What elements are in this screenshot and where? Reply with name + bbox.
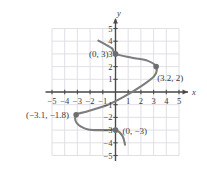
y-tick-label: 5 [108, 24, 112, 33]
y-tick-label: −5 [103, 151, 112, 160]
y-tick-label: 2 [108, 62, 112, 71]
x-tick-label: 5 [177, 97, 181, 106]
y-tick-label: −4 [103, 139, 112, 148]
point-label-p-0-n3: (0, −3) [123, 127, 148, 136]
point-label-p-32-2: (3.2, 2) [157, 73, 183, 82]
x-tick-label: 4 [164, 97, 168, 106]
point-label-p-n31-n18: (−3.1, −1.8) [26, 110, 69, 119]
x-tick-label: 1 [126, 97, 130, 106]
data-point-marker [73, 112, 79, 118]
x-tick-label: −4 [60, 97, 69, 106]
x-tick-label: 3 [151, 97, 155, 106]
data-point-marker [113, 127, 119, 133]
x-tick-label: −3 [73, 97, 82, 106]
y-tick-label: −2 [103, 113, 112, 122]
data-point-marker [153, 64, 159, 70]
data-point-marker [113, 51, 119, 57]
y-tick-label: −3 [103, 126, 112, 135]
y-tick-label: 3 [108, 50, 112, 59]
x-tick-label: −5 [47, 97, 56, 106]
x-tick-label: −2 [86, 97, 95, 106]
y-axis-label: y [117, 9, 121, 18]
x-axis-label: x [192, 88, 196, 97]
y-tick-label: −1 [103, 100, 112, 109]
x-tick-label: 2 [139, 97, 143, 106]
coordinate-plane-figure: −5−4−3−2−11234554321−1−2−3−4−5 x y (0, 3… [0, 0, 207, 171]
y-axis-arrow-icon [113, 18, 118, 24]
x-axis-arrow-icon [183, 90, 189, 95]
y-tick-label: 1 [108, 75, 112, 84]
point-label-p-0-3: (0, 3) [89, 49, 109, 58]
y-tick-label: 4 [108, 37, 112, 46]
